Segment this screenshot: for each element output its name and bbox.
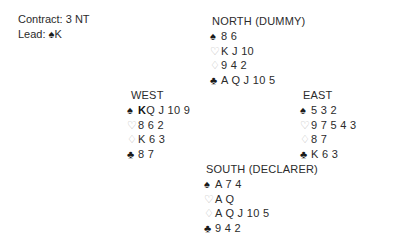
hand-north-label: NORTH (DUMMY) bbox=[212, 14, 305, 28]
heart-icon: ♡ bbox=[204, 192, 215, 207]
east-hearts: 9 7 5 4 3 bbox=[311, 119, 357, 131]
hand-east-label: EAST bbox=[303, 88, 357, 102]
hand-north: NORTH (DUMMY) ♠8 6 ♡K J 10 ♢9 4 2 ♣A Q J… bbox=[210, 14, 305, 87]
hand-west-label: WEST bbox=[131, 88, 190, 102]
north-spade-row: ♠8 6 bbox=[210, 29, 305, 44]
east-diamonds: 8 7 bbox=[311, 133, 327, 145]
spade-icon: ♠ bbox=[127, 103, 138, 118]
west-spade-row: ♠KQ J 10 9 bbox=[127, 103, 190, 118]
south-spade-row: ♠A 7 4 bbox=[204, 177, 318, 192]
east-spade-row: ♠5 3 2 bbox=[300, 103, 357, 118]
north-heart-row: ♡K J 10 bbox=[210, 44, 305, 59]
diamond-icon: ♢ bbox=[127, 132, 138, 147]
south-diamond-row: ♢A Q J 10 5 bbox=[204, 206, 318, 221]
west-heart-row: ♡8 6 2 bbox=[127, 118, 190, 133]
south-diamonds: A Q J 10 5 bbox=[215, 207, 269, 219]
hand-east: EAST ♠5 3 2 ♡9 7 5 4 3 ♢8 7 ♣K 6 3 bbox=[300, 88, 357, 161]
club-icon: ♣ bbox=[300, 147, 311, 162]
south-heart-row: ♡A Q bbox=[204, 192, 318, 207]
north-diamonds: 9 4 2 bbox=[221, 59, 247, 71]
hand-south: SOUTH (DECLARER) ♠A 7 4 ♡A Q ♢A Q J 10 5… bbox=[204, 162, 318, 235]
hand-west: WEST ♠KQ J 10 9 ♡8 6 2 ♢K 6 3 ♣8 7 bbox=[127, 88, 190, 161]
contract-line: Contract: 3 NT bbox=[18, 12, 90, 27]
club-icon: ♣ bbox=[127, 147, 138, 162]
spade-icon: ♠ bbox=[300, 103, 311, 118]
diamond-icon: ♢ bbox=[300, 132, 311, 147]
east-club-row: ♣K 6 3 bbox=[300, 147, 357, 162]
south-clubs: 9 4 2 bbox=[215, 222, 241, 234]
north-clubs: A Q J 10 5 bbox=[221, 74, 275, 86]
west-spades: Q J 10 9 bbox=[146, 104, 190, 116]
hand-south-label: SOUTH (DECLARER) bbox=[206, 162, 318, 176]
west-diamonds: K 6 3 bbox=[138, 133, 165, 145]
heart-icon: ♡ bbox=[127, 118, 138, 133]
east-heart-row: ♡9 7 5 4 3 bbox=[300, 118, 357, 133]
heart-icon: ♡ bbox=[210, 44, 221, 59]
club-icon: ♣ bbox=[210, 73, 221, 88]
south-hearts: A Q bbox=[215, 193, 234, 205]
spade-icon: ♠ bbox=[210, 29, 221, 44]
spade-icon: ♠ bbox=[204, 177, 215, 192]
west-clubs: 8 7 bbox=[138, 148, 154, 160]
east-diamond-row: ♢8 7 bbox=[300, 132, 357, 147]
north-diamond-row: ♢9 4 2 bbox=[210, 58, 305, 73]
deal-header: Contract: 3 NT Lead: ♠K bbox=[18, 12, 90, 42]
west-spade-lead-card: K bbox=[138, 104, 146, 116]
west-diamond-row: ♢K 6 3 bbox=[127, 132, 190, 147]
south-club-row: ♣9 4 2 bbox=[204, 221, 318, 236]
south-spades: A 7 4 bbox=[215, 178, 242, 190]
heart-icon: ♡ bbox=[300, 118, 311, 133]
east-clubs: K 6 3 bbox=[311, 148, 338, 160]
west-club-row: ♣8 7 bbox=[127, 147, 190, 162]
north-club-row: ♣A Q J 10 5 bbox=[210, 73, 305, 88]
diamond-icon: ♢ bbox=[210, 58, 221, 73]
lead-line: Lead: ♠K bbox=[18, 27, 90, 42]
lead-label: Lead: bbox=[18, 28, 46, 40]
north-spades: 8 6 bbox=[221, 30, 237, 42]
diamond-icon: ♢ bbox=[204, 206, 215, 221]
lead-card-value: K bbox=[54, 28, 61, 40]
contract-label: Contract: bbox=[18, 13, 63, 25]
north-hearts: K J 10 bbox=[221, 45, 254, 57]
east-spades: 5 3 2 bbox=[311, 104, 337, 116]
west-hearts: 8 6 2 bbox=[138, 119, 164, 131]
contract-value: 3 NT bbox=[66, 13, 90, 25]
club-icon: ♣ bbox=[204, 221, 215, 236]
